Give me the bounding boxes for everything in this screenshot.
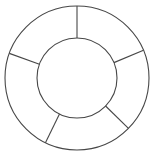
segmented-ring-diagram: [0, 0, 150, 155]
segment-dividers: [9, 6, 143, 143]
segment-divider-5: [9, 53, 39, 64]
segment-divider-3: [106, 106, 129, 128]
segment-divider-4: [45, 114, 59, 143]
segment-divider-2: [114, 50, 144, 62]
inner-ring: [37, 38, 117, 118]
diagram-canvas: [0, 0, 150, 155]
